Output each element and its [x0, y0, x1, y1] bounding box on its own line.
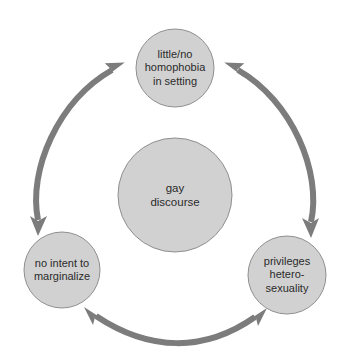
connector-arc-right	[224, 63, 319, 238]
node-circle-no-intent-to-marginalize[interactable]	[24, 232, 100, 308]
node-circle-gay-discourse[interactable]	[118, 138, 232, 252]
diagram-nodes	[24, 29, 326, 314]
diagram-canvas: little/no homophobia in setting gay disc…	[0, 0, 349, 363]
diagram-graphics	[0, 0, 349, 363]
connector-arc-bottom	[84, 307, 267, 343]
node-circle-little-no-homophobia[interactable]	[136, 29, 214, 107]
connector-arc-left	[30, 63, 125, 236]
node-circle-privileges-heterosexuality[interactable]	[248, 236, 326, 314]
